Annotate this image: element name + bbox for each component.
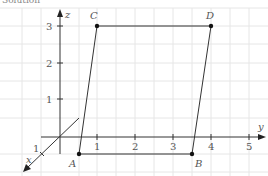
point-b: [190, 152, 194, 156]
z-tick-2: 2: [46, 58, 52, 69]
point-d-label: D: [205, 10, 214, 21]
y-tick-4: 4: [208, 141, 214, 152]
parallelogram-3d-diagram: Solution y 1 2 3 4 5 z 3 2 1 1 x A B: [0, 0, 268, 176]
z-tick-1: 1: [46, 94, 52, 105]
y-axis-label: y: [257, 121, 264, 132]
point-c-label: C: [90, 10, 98, 21]
point-d: [209, 24, 213, 28]
point-a: [77, 152, 81, 156]
point-b-label: B: [194, 158, 202, 169]
y-tick-5: 5: [246, 141, 252, 152]
title-cut-text: Solution: [2, 0, 40, 5]
z-tick-3: 3: [46, 21, 52, 32]
y-tick-3: 3: [170, 141, 176, 152]
x-tick-1: 1: [33, 143, 39, 154]
z-axis-label: z: [64, 9, 71, 20]
point-a-label: A: [68, 158, 76, 169]
point-c: [95, 24, 99, 28]
parallelogram: [79, 26, 211, 154]
y-tick-1: 1: [94, 141, 100, 152]
y-tick-2: 2: [132, 141, 138, 152]
x-axis-label: x: [26, 154, 32, 165]
